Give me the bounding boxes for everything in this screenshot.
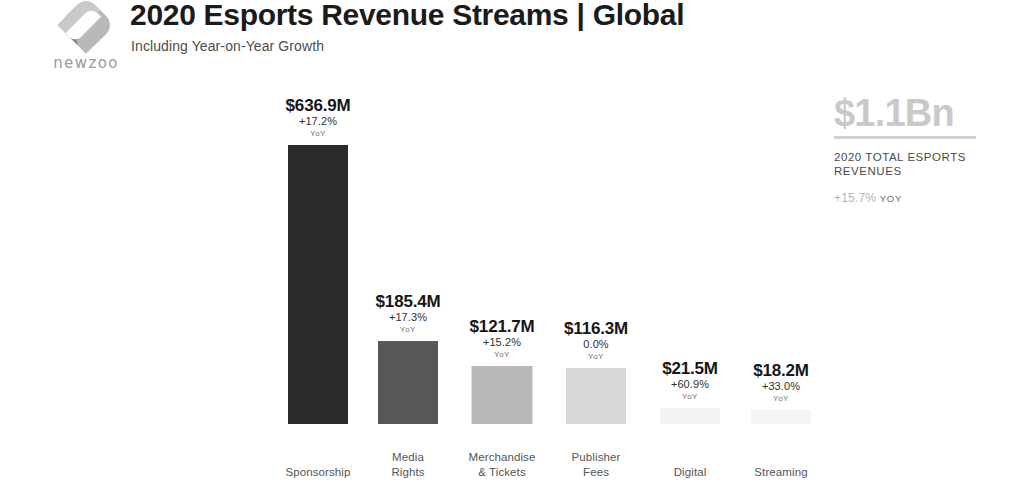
category-line-1: Streaming [754,465,807,480]
total-revenue-caption: 2020 TOTAL ESPORTS REVENUES [834,150,984,178]
total-divider [834,136,976,139]
bar-yoy-suffix: YoY [753,393,809,404]
category-line-2: Fees [572,465,621,480]
bar-yoy-growth: +33.0% [753,380,809,393]
bar-chart: $636.9M+17.2%YoYSponsorship$185.4M+17.3%… [0,0,840,498]
category-line-1: Digital [674,465,707,480]
bar-category-label: MediaRights [391,450,424,480]
category-line-2: Rights [391,465,424,480]
category-line-1: Publisher [572,450,621,465]
bar-category-label: Streaming [754,465,807,480]
slide-canvas: newzoo 2020 Esports Revenue Streams | Gl… [0,0,1024,498]
total-revenue-panel: $1.1Bn 2020 TOTAL ESPORTS REVENUES +15.7… [834,92,1014,206]
bar-category-label: PublisherFees [572,450,621,480]
total-growth-suffix: YOY [880,193,902,204]
total-revenue-value: $1.1Bn [834,92,1014,134]
bar-value-labels: $18.2M+33.0%YoY [753,361,809,404]
bar-value: $18.2M [753,361,809,380]
bar-category-label: Digital [674,465,707,480]
total-growth-value: +15.7% [834,191,876,205]
bar-rect[interactable] [751,410,811,424]
category-line-1: Media [391,450,424,465]
bar-group[interactable]: $18.2M+33.0%YoYStreaming [706,0,856,498]
total-revenue-growth: +15.7% YOY [834,191,1014,206]
